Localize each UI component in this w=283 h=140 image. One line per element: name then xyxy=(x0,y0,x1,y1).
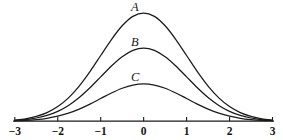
x-axis-tick-label-2: −1 xyxy=(95,126,107,138)
curve-label-a: A xyxy=(131,1,139,14)
plot-area xyxy=(0,0,283,140)
curve-a-path xyxy=(15,13,273,120)
bell-curves-figure: A B C −3−2−10123 xyxy=(0,0,283,140)
x-axis-tick-label-5: 2 xyxy=(227,126,233,138)
curve-label-b: B xyxy=(131,36,139,49)
x-axis-tick-label-0: −3 xyxy=(9,126,21,138)
x-axis-tick-label-4: 1 xyxy=(184,126,190,138)
curve-label-c: C xyxy=(131,71,139,84)
x-axis-tick-label-6: 3 xyxy=(270,126,276,138)
curves-group xyxy=(15,13,273,121)
x-axis-tick-label-1: −2 xyxy=(52,126,64,138)
curve-c-path xyxy=(15,84,273,121)
x-axis-tick-label-3: 0 xyxy=(141,126,147,138)
